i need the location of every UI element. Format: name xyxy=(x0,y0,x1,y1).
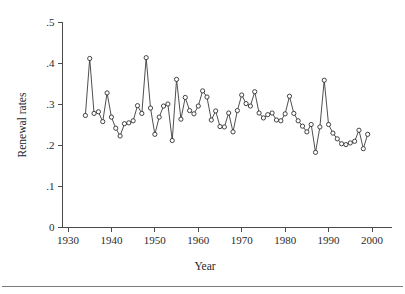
data-point-marker xyxy=(214,109,218,113)
y-tick-label: .3 xyxy=(46,98,55,110)
data-point-marker xyxy=(357,128,361,132)
data-point-marker xyxy=(261,116,265,120)
data-point-marker xyxy=(83,113,87,117)
data-point-marker xyxy=(196,104,200,108)
data-point-marker xyxy=(114,126,118,130)
data-point-marker xyxy=(313,150,317,154)
data-point-marker xyxy=(300,124,304,128)
data-point-marker xyxy=(174,77,178,81)
data-point-marker xyxy=(161,104,165,108)
x-tick-label: 1950 xyxy=(144,234,167,246)
data-point-marker xyxy=(127,121,131,125)
x-tick-label: 1960 xyxy=(187,234,210,246)
data-point-marker xyxy=(222,125,226,129)
data-point-marker xyxy=(348,141,352,145)
x-tick-label: 1990 xyxy=(318,234,341,246)
x-tick-label: 1940 xyxy=(100,234,123,246)
x-tick-label: 2000 xyxy=(361,234,384,246)
data-point-marker xyxy=(231,130,235,134)
data-point-marker xyxy=(144,56,148,60)
y-tick-label: .2 xyxy=(46,139,54,151)
data-point-marker xyxy=(309,122,313,126)
data-point-marker xyxy=(366,132,370,136)
data-point-marker xyxy=(296,119,300,123)
data-point-marker xyxy=(218,124,222,128)
x-tick-label: 1930 xyxy=(57,234,80,246)
data-point-marker xyxy=(157,115,161,119)
data-point-marker xyxy=(105,91,109,95)
data-point-marker xyxy=(88,56,92,60)
data-point-marker xyxy=(326,122,330,126)
data-point-marker xyxy=(122,122,126,126)
data-point-marker xyxy=(253,90,257,94)
data-point-marker xyxy=(318,125,322,129)
data-point-marker xyxy=(279,119,283,123)
data-point-marker xyxy=(166,102,170,106)
data-point-marker xyxy=(240,93,244,97)
renewal-rates-line-chart: 0.1.2.3.4.5 1930194019501960197019801990… xyxy=(0,0,405,294)
data-point-marker xyxy=(292,111,296,115)
data-point-marker xyxy=(270,111,274,115)
data-point-marker xyxy=(209,118,213,122)
data-point-marker xyxy=(118,134,122,138)
data-point-marker xyxy=(179,117,183,121)
x-tick-label: 1970 xyxy=(231,234,254,246)
x-tick-label: 1980 xyxy=(274,234,297,246)
y-tick-label: 0 xyxy=(49,221,55,233)
data-point-marker xyxy=(131,119,135,123)
data-point-marker xyxy=(274,118,278,122)
data-point-marker xyxy=(96,110,100,114)
data-point-marker xyxy=(170,138,174,142)
data-point-marker xyxy=(192,112,196,116)
y-tick-label: .1 xyxy=(46,180,54,192)
y-tick-label: .4 xyxy=(46,57,55,69)
data-point-marker xyxy=(109,115,113,119)
data-point-marker xyxy=(361,147,365,151)
data-point-marker xyxy=(188,108,192,112)
data-point-marker xyxy=(244,101,248,105)
data-point-marker xyxy=(257,111,261,115)
data-point-marker xyxy=(140,111,144,115)
data-point-marker xyxy=(353,139,357,143)
data-point-marker xyxy=(283,112,287,116)
chart-background xyxy=(0,0,405,294)
data-point-marker xyxy=(340,142,344,146)
data-point-marker xyxy=(183,95,187,99)
data-point-marker xyxy=(148,106,152,110)
data-point-marker xyxy=(235,108,239,112)
x-axis-title: Year xyxy=(194,260,215,272)
data-point-marker xyxy=(266,113,270,117)
data-point-marker xyxy=(305,130,309,134)
data-point-marker xyxy=(248,104,252,108)
data-point-marker xyxy=(227,111,231,115)
data-point-marker xyxy=(153,132,157,136)
data-point-marker xyxy=(205,95,209,99)
data-point-marker xyxy=(201,89,205,93)
data-point-marker xyxy=(101,120,105,124)
y-axis-title: Renewal rates xyxy=(16,92,28,157)
data-point-marker xyxy=(92,111,96,115)
data-point-marker xyxy=(135,104,139,108)
data-point-marker xyxy=(331,131,335,135)
data-point-marker xyxy=(344,142,348,146)
data-point-marker xyxy=(322,78,326,82)
data-point-marker xyxy=(335,137,339,141)
y-tick-label: .5 xyxy=(46,16,55,28)
data-point-marker xyxy=(287,94,291,98)
